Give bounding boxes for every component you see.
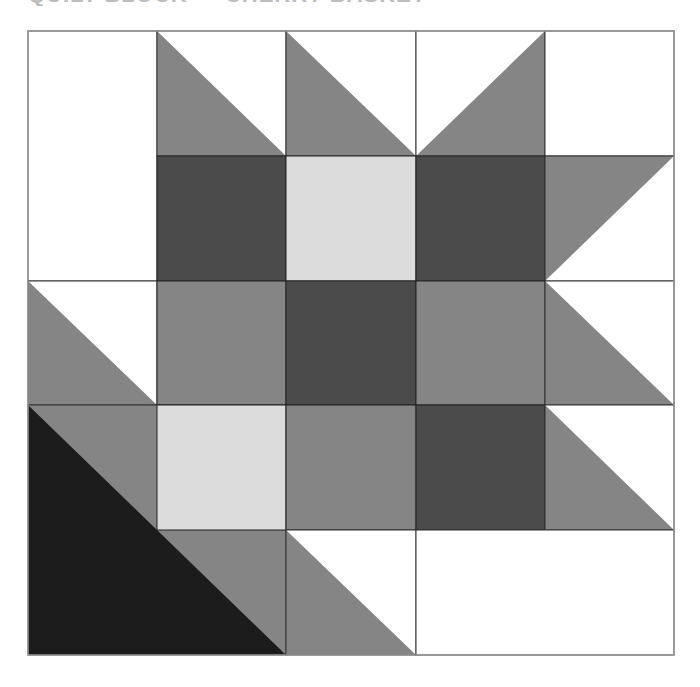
hst-r2c0 — [28, 281, 157, 405]
white-tall-rect-left — [28, 31, 157, 281]
dark-square-r1c1 — [157, 156, 286, 281]
hst-r1c4 — [545, 156, 674, 281]
white-square-r0c4 — [545, 31, 674, 156]
medium-square-r2c3 — [416, 281, 545, 405]
hst-r0c1 — [157, 31, 286, 156]
medium-square-r2c1 — [157, 281, 286, 405]
quilt-block-diagram — [0, 0, 700, 687]
dark-square-r1c3 — [416, 156, 545, 281]
dark-square-r2c2 — [286, 281, 416, 405]
light-square-r1c2 — [286, 156, 416, 281]
white-wide-rect-bottom-right — [416, 530, 674, 655]
hst-r3c4 — [545, 405, 674, 530]
hst-r4c2 — [286, 530, 416, 655]
medium-square-r3c2 — [286, 405, 416, 530]
light-square-r3c1 — [157, 405, 286, 530]
hst-r0c2 — [286, 31, 416, 156]
hst-r0c3 — [416, 31, 545, 156]
hst-r2c4 — [545, 281, 674, 405]
dark-square-r3c3 — [416, 405, 545, 530]
